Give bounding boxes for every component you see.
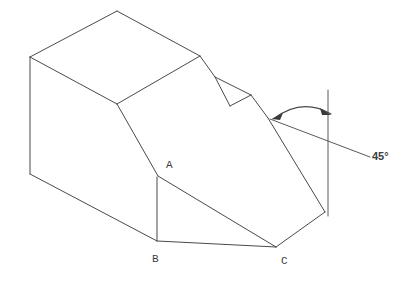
notch-inner-diagonal (215, 77, 251, 95)
dimension-annotation-group (270, 90, 370, 216)
vertex-label-b: B (152, 253, 159, 265)
inclined-face-right-edge (268, 118, 325, 212)
edge-a-to-c (158, 176, 276, 247)
solid-body-group (30, 11, 325, 247)
top-face-edge-upper-left (30, 11, 117, 57)
notch-edge-left-lower (215, 77, 230, 106)
center-junction-to-a-edge (117, 104, 158, 176)
top-face-edge-lower-left (30, 57, 117, 104)
angle-leader-line (270, 119, 370, 157)
vertex-label-a: A (166, 159, 173, 171)
labels-group: A B C 45° (152, 150, 389, 267)
arc-arrowhead-left (272, 113, 283, 120)
angle-dimension-label: 45° (372, 150, 389, 162)
arc-arrowhead-right (320, 108, 331, 115)
notch-edge-right (251, 95, 268, 118)
edge-b-to-c (157, 241, 276, 247)
bottom-left-diagonal-edge (30, 174, 157, 241)
technical-drawing-figure: A B C 45° (0, 0, 413, 281)
inclined-face-lower-edge (276, 212, 325, 247)
notch-edge-bottom (230, 95, 251, 106)
vertex-label-c: C (281, 255, 288, 267)
top-face-edge-upper-right (117, 11, 200, 56)
notch-edge-left-upper (200, 56, 215, 77)
top-face-edge-lower-right (117, 56, 200, 104)
